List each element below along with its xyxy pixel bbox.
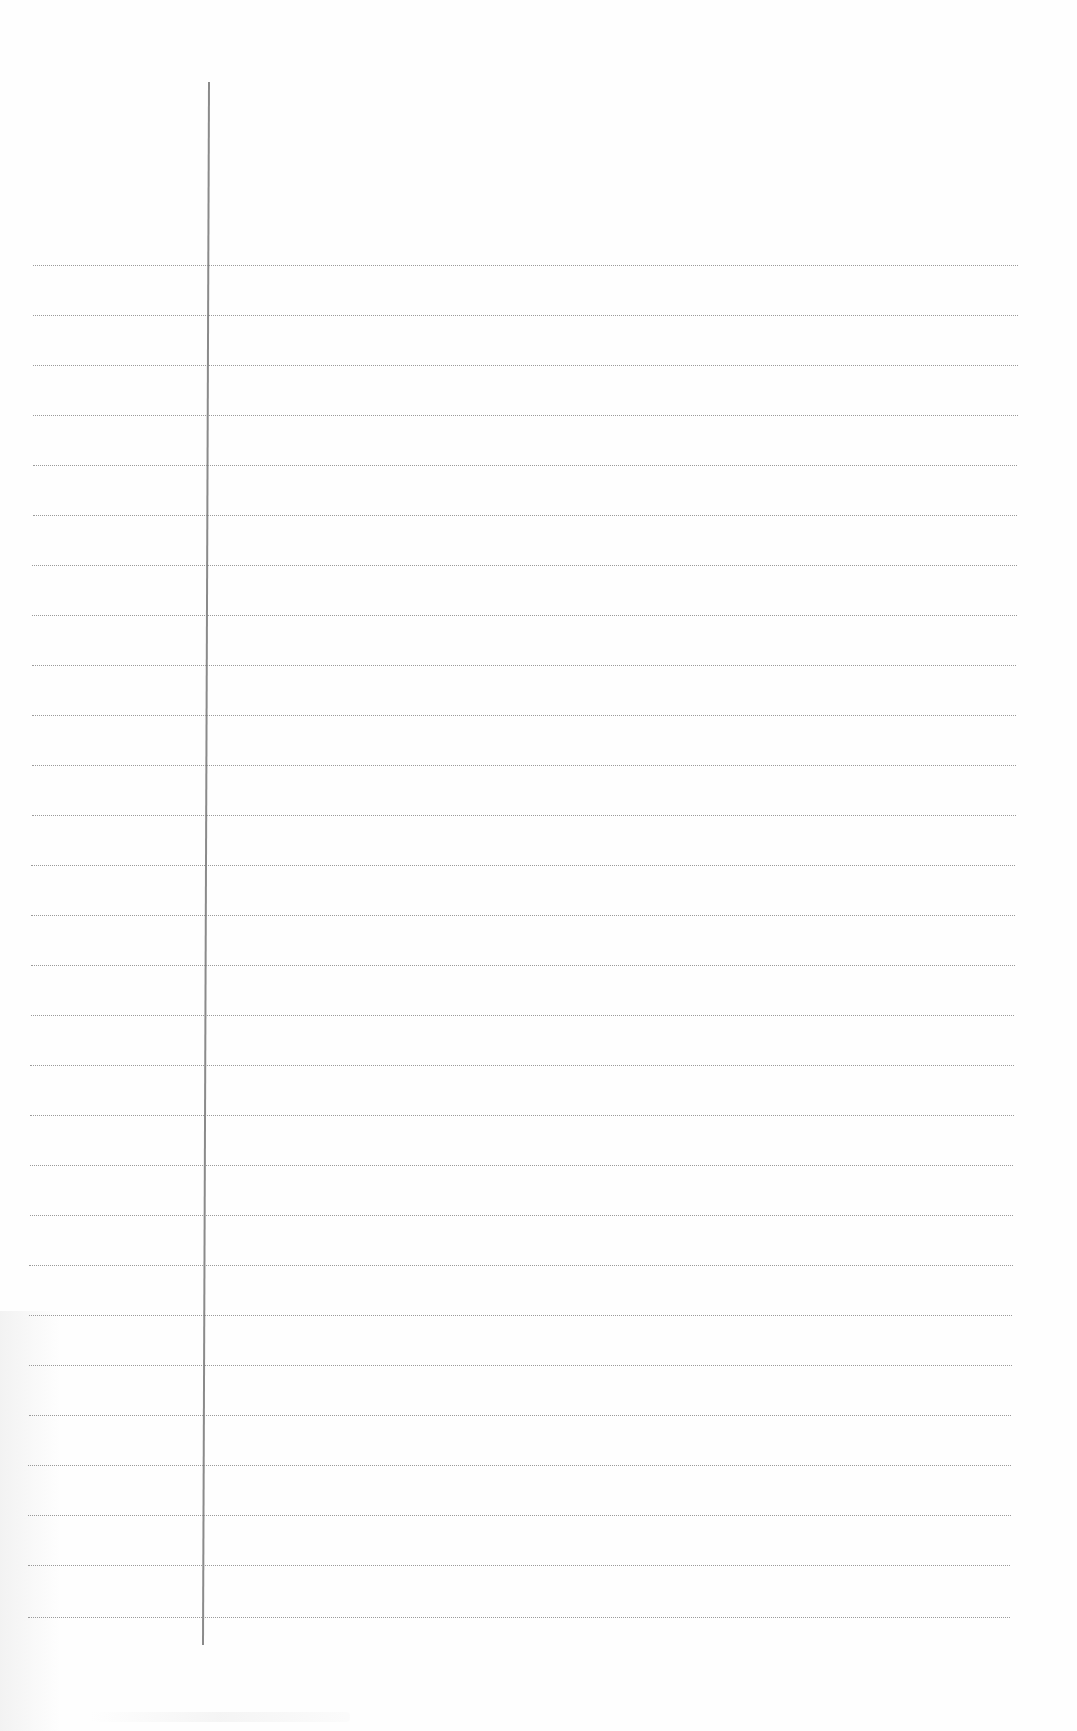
ruled-line	[32, 565, 1017, 566]
ruled-line	[32, 815, 1016, 816]
ruled-line	[30, 1215, 1013, 1216]
margin-line	[202, 82, 210, 1645]
ruled-line	[32, 715, 1016, 716]
ruled-line	[28, 1515, 1011, 1516]
ruled-line	[33, 415, 1018, 416]
ruled-line	[32, 765, 1016, 766]
ruled-line	[30, 1065, 1014, 1066]
ruled-line	[33, 265, 1018, 266]
ruled-line	[33, 465, 1017, 466]
ruled-line	[31, 965, 1015, 966]
ruled-line	[31, 865, 1015, 866]
ruled-line	[29, 1315, 1012, 1316]
ruled-line	[28, 1617, 1010, 1618]
ruled-line	[31, 1015, 1014, 1016]
ruled-line	[32, 665, 1016, 666]
ruled-line	[30, 1115, 1014, 1116]
ruled-line	[33, 365, 1018, 366]
ruled-line	[29, 1365, 1012, 1366]
ruled-line	[33, 315, 1018, 316]
page-edge-shadow	[0, 1311, 60, 1731]
ruled-line	[30, 1165, 1013, 1166]
bleed-through-smudge	[90, 1712, 350, 1722]
ruled-line	[31, 915, 1015, 916]
ruled-line	[32, 615, 1017, 616]
ruled-line	[28, 1465, 1011, 1466]
ruled-line	[28, 1565, 1010, 1566]
notebook-page	[0, 0, 1077, 1731]
ruled-line	[33, 515, 1017, 516]
ruled-line	[29, 1415, 1011, 1416]
ruled-line	[29, 1265, 1013, 1266]
